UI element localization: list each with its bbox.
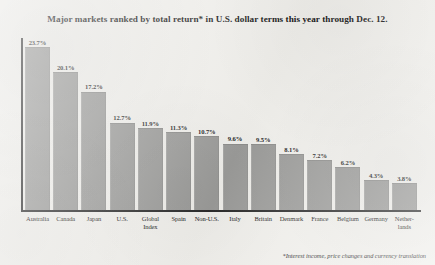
x-axis-label: Italy bbox=[223, 215, 248, 230]
x-axis-label-line1: Germany bbox=[364, 215, 388, 222]
bar-series: 23.7%20.1%17.2%12.7%11.9%11.3%10.7%9.6%9… bbox=[25, 38, 417, 210]
x-axis-label: Non-U.S. bbox=[194, 215, 219, 230]
x-axis-label-line1: Nether- bbox=[395, 215, 414, 222]
x-axis-label-line1: France bbox=[311, 215, 328, 222]
x-axis-label-line1: U.S. bbox=[117, 215, 128, 222]
bar-rect[interactable] bbox=[364, 180, 389, 210]
y-axis-line bbox=[21, 38, 23, 212]
bar-slot[interactable]: 4.3% bbox=[364, 38, 389, 210]
bar-rect[interactable] bbox=[392, 183, 417, 210]
bar-value-label: 20.1% bbox=[57, 64, 75, 71]
x-axis-label: Spain bbox=[166, 215, 191, 230]
bar-slot[interactable]: 17.2% bbox=[81, 38, 106, 210]
plot-area: 23.7%20.1%17.2%12.7%11.9%11.3%10.7%9.6%9… bbox=[21, 38, 421, 212]
bar-value-label: 11.9% bbox=[142, 120, 159, 127]
bar-slot[interactable]: 23.7% bbox=[25, 38, 50, 210]
x-axis-label: Canada bbox=[53, 215, 78, 230]
bar-slot[interactable]: 9.5% bbox=[251, 38, 276, 210]
bar-value-label: 9.5% bbox=[256, 136, 270, 143]
x-axis-label-line1: Japan bbox=[87, 215, 101, 222]
bar-slot[interactable]: 9.6% bbox=[223, 38, 248, 210]
x-axis-label: France bbox=[307, 215, 332, 230]
bar-slot[interactable]: 11.3% bbox=[166, 38, 191, 210]
x-axis-label: Denmark bbox=[279, 215, 304, 230]
bar-value-label: 3.8% bbox=[397, 175, 411, 182]
x-axis-label-line1: Belgium bbox=[337, 215, 359, 222]
x-axis-labels: AustraliaCanadaJapanU.S.GlobalIndexSpain… bbox=[25, 215, 417, 230]
bar-value-label: 9.6% bbox=[228, 135, 242, 142]
bar-rect[interactable] bbox=[251, 144, 276, 210]
x-axis-label: Nether-lands bbox=[392, 215, 417, 230]
bar-rect[interactable] bbox=[53, 72, 78, 210]
x-axis-label-line1: Britain bbox=[255, 215, 272, 222]
bar-rect[interactable] bbox=[335, 167, 360, 210]
bar-value-label: 7.2% bbox=[312, 152, 326, 159]
x-axis-label-line1: Spain bbox=[171, 215, 185, 222]
bar-slot[interactable]: 20.1% bbox=[53, 38, 78, 210]
bar-slot[interactable]: 10.7% bbox=[194, 38, 219, 210]
x-axis-label-line1: Italy bbox=[229, 215, 240, 222]
bar-slot[interactable]: 7.2% bbox=[307, 38, 332, 210]
bar-rect[interactable] bbox=[138, 128, 163, 210]
x-axis-label: Germany bbox=[364, 215, 389, 230]
x-axis-label: U.S. bbox=[110, 215, 135, 230]
bar-rect[interactable] bbox=[223, 144, 248, 211]
bar-rect[interactable] bbox=[25, 47, 50, 210]
bar-rect[interactable] bbox=[307, 160, 332, 210]
bar-value-label: 17.2% bbox=[85, 83, 103, 90]
x-axis-label-line1: Australia bbox=[26, 215, 49, 222]
bar-rect[interactable] bbox=[110, 123, 135, 211]
x-axis-label-line1: Global bbox=[142, 215, 159, 222]
x-axis-label: Japan bbox=[81, 215, 106, 230]
bar-slot[interactable]: 8.1% bbox=[279, 38, 304, 210]
bar-rect[interactable] bbox=[279, 154, 304, 210]
bar-value-label: 23.7% bbox=[29, 39, 47, 46]
bar-rect[interactable] bbox=[81, 92, 106, 211]
chart-title: Major markets ranked by total return* in… bbox=[0, 14, 435, 24]
bar-rect[interactable] bbox=[194, 136, 219, 210]
bar-value-label: 12.7% bbox=[113, 114, 131, 121]
x-axis-label: Australia bbox=[25, 215, 50, 230]
x-axis-label: Britain bbox=[251, 215, 276, 230]
x-axis-label-line2: lands bbox=[392, 223, 417, 231]
bar-value-label: 6.2% bbox=[341, 159, 355, 166]
bar-slot[interactable]: 3.8% bbox=[392, 38, 417, 210]
bar-value-label: 8.1% bbox=[284, 146, 298, 153]
x-axis-line bbox=[21, 210, 421, 212]
bar-slot[interactable]: 12.7% bbox=[110, 38, 135, 210]
bar-rect[interactable] bbox=[166, 132, 191, 210]
chart-footnote: *Interest income, price changes and curr… bbox=[282, 252, 426, 259]
bar-slot[interactable]: 6.2% bbox=[335, 38, 360, 210]
x-axis-label-line2: Index bbox=[138, 223, 163, 231]
x-axis-label-line1: Canada bbox=[56, 215, 75, 222]
x-axis-label: Belgium bbox=[335, 215, 360, 230]
x-axis-label-line1: Non-U.S. bbox=[195, 215, 219, 222]
bar-value-label: 10.7% bbox=[198, 128, 216, 135]
x-axis-label: GlobalIndex bbox=[138, 215, 163, 230]
bar-value-label: 11.3% bbox=[170, 124, 187, 131]
bar-value-label: 4.3% bbox=[369, 172, 383, 179]
bar-slot[interactable]: 11.9% bbox=[138, 38, 163, 210]
x-axis-label-line1: Denmark bbox=[280, 215, 304, 222]
